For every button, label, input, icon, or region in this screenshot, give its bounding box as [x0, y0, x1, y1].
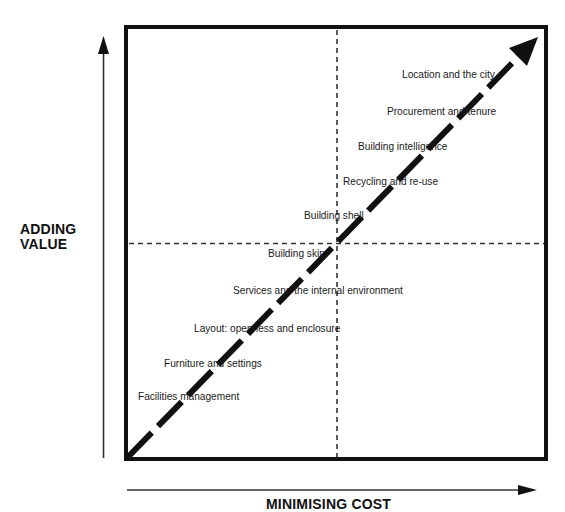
- label-services: Services and the internal environment: [233, 284, 403, 297]
- label-location: Location and the city: [402, 68, 495, 81]
- label-building-intelligence: Building intelligence: [358, 140, 447, 153]
- label-building-skin: Building skin: [268, 247, 325, 260]
- label-building-shell: Building shell: [304, 209, 364, 222]
- label-furniture: Furniture and settings: [164, 357, 262, 370]
- label-recycling: Recycling and re-use: [343, 175, 438, 188]
- y-axis-arrow: [98, 36, 109, 458]
- label-procurement: Procurement and tenure: [387, 105, 496, 118]
- x-axis-label: MINIMISING COST: [266, 497, 391, 512]
- y-axis-label-line1: ADDING: [20, 222, 76, 237]
- y-axis-label-line2: VALUE: [20, 237, 76, 252]
- label-layout: Layout: openness and enclosure: [194, 322, 340, 335]
- y-axis-label: ADDING VALUE: [20, 222, 76, 252]
- x-axis-arrow: [127, 485, 537, 495]
- label-facilities: Facilities management: [138, 390, 239, 403]
